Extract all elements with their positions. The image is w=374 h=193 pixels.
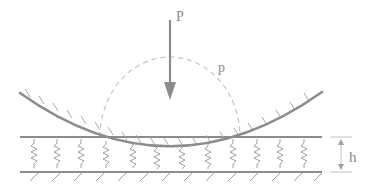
pressure-label: p [218,60,225,75]
ground-hatching [30,173,322,181]
thickness-label: h [349,149,357,165]
load-arrow-head [164,82,176,100]
contact-diagram: P p h [0,0,374,193]
load-label: P [176,9,184,24]
springs [31,139,307,169]
indenter-surface [20,92,322,146]
